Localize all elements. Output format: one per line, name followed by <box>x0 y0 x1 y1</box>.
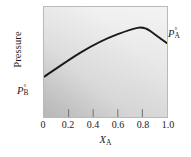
vapor-pressure-diagram: Pressure 0 0.2 0.4 0.6 0.8 1.0 XA P°A P°… <box>0 0 191 157</box>
x-axis-ticks <box>69 109 143 117</box>
annotation-p-b-subscript: B <box>23 88 28 97</box>
plot-area <box>43 6 168 118</box>
x-axis-tick-labels: 0 0.2 0.4 0.6 0.8 1.0 <box>43 119 168 133</box>
annotation-p-a-subscript: A <box>174 31 179 40</box>
annotation-p-a-pure: P°A <box>168 28 174 39</box>
x-tick-label-0.4: 0.4 <box>87 119 100 130</box>
annotation-p-b-pure: P°B <box>17 85 23 96</box>
x-tick-label-0.8: 0.8 <box>137 119 150 130</box>
y-axis-label-text: Pressure <box>12 31 23 67</box>
x-tick-label-0: 0 <box>41 119 46 130</box>
plot-canvas <box>44 7 167 117</box>
x-tick-label-0.6: 0.6 <box>112 119 125 130</box>
x-tick-label-1.0: 1.0 <box>162 119 175 130</box>
x-axis-label-subscript: A <box>106 138 111 147</box>
x-tick-label-0.2: 0.2 <box>62 119 75 130</box>
y-axis-label: Pressure <box>12 5 23 95</box>
pressure-curve <box>44 28 167 77</box>
x-axis-label: XA <box>43 134 168 147</box>
